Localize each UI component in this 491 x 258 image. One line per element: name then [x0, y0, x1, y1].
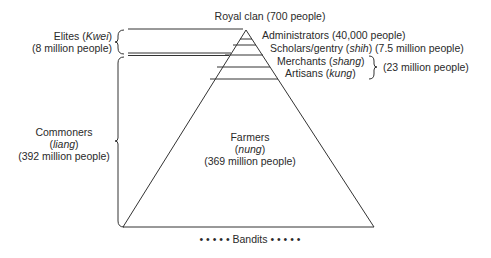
- merchants-text-a: Merchants (: [277, 55, 332, 67]
- artisans-text-b: ): [352, 67, 356, 79]
- artisans-text-italic: kung: [329, 67, 352, 79]
- merchants-text-b: ): [361, 55, 365, 67]
- artisans-text-a: Artisans (: [285, 67, 329, 79]
- farmers-count: (369 million people): [190, 155, 310, 167]
- merchants-text-italic: shang: [332, 55, 361, 67]
- commoners-title: Commoners: [12, 126, 116, 138]
- elites-text-italic: Kwei: [86, 30, 109, 42]
- elites-text-b: ): [109, 30, 113, 42]
- royal-clan-label: Royal clan (700 people): [190, 10, 350, 22]
- elites-text-a: Elites (: [54, 30, 86, 42]
- bandits-label: • • • • • Bandits • • • • •: [170, 233, 330, 245]
- farmers-italic: nung: [238, 143, 261, 155]
- scholars-text-b: ) (7.5 million people): [369, 42, 464, 54]
- commoners-term: (liang): [12, 138, 116, 150]
- farmers-term: (nung): [190, 143, 310, 155]
- merchants-label: Merchants (shang): [277, 55, 365, 67]
- elites-label: Elites (Kwei) (8 million people): [0, 30, 112, 54]
- administrators-label: Administrators (40,000 people): [262, 29, 406, 41]
- administrators-text: Administrators (40,000 people): [262, 29, 406, 41]
- scholars-label: Scholars/gentry (shih) (7.5 million peop…: [270, 42, 464, 54]
- merchants-artisans-total-label: (23 million people): [383, 61, 469, 73]
- royal-text: Royal clan (700 people): [215, 10, 326, 22]
- elites-title: Elites (Kwei): [0, 30, 112, 42]
- total-text: (23 million people): [383, 61, 469, 73]
- scholars-text-a: Scholars/gentry (: [270, 42, 349, 54]
- commoners-label: Commoners (liang) (392 million people): [12, 126, 116, 162]
- artisans-label: Artisans (kung): [285, 67, 356, 79]
- farmers-title: Farmers: [190, 131, 310, 143]
- elites-count: (8 million people): [0, 42, 112, 54]
- commoners-italic: liang: [53, 138, 75, 150]
- commoners-count: (392 million people): [12, 150, 116, 162]
- bandits-text: • • • • • Bandits • • • • •: [200, 233, 301, 245]
- scholars-text-italic: shih: [349, 42, 368, 54]
- farmers-label: Farmers (nung) (369 million people): [190, 131, 310, 167]
